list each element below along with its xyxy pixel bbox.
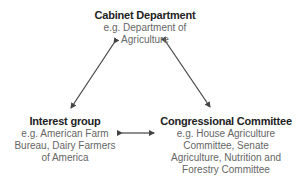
- node-title: Cabinet Department: [80, 9, 210, 22]
- arrow-cabinet-congress: [166, 42, 210, 107]
- node-example: Agriculture: [80, 34, 210, 46]
- node-example: e.g. Department of: [80, 22, 210, 34]
- node-example: Forestry Committee: [156, 164, 296, 176]
- node-example: Agriculture, Nutrition and: [156, 152, 296, 164]
- arrow-cabinet-interest: [71, 43, 114, 108]
- node-example: Committee, Senate: [156, 140, 296, 152]
- node-congressional-committee: Congressional Committee e.g. House Agric…: [156, 115, 296, 176]
- node-cabinet-department: Cabinet Department e.g. Department of Ag…: [80, 9, 210, 46]
- node-title: Congressional Committee: [156, 115, 296, 128]
- node-example: e.g. American Farm: [10, 128, 120, 140]
- node-interest-group: Interest group e.g. American Farm Bureau…: [10, 115, 120, 164]
- node-example: Bureau, Dairy Farmers: [10, 140, 120, 152]
- node-title: Interest group: [10, 115, 120, 128]
- node-example: of America: [10, 152, 120, 164]
- node-example: e.g. House Agriculture: [156, 128, 296, 140]
